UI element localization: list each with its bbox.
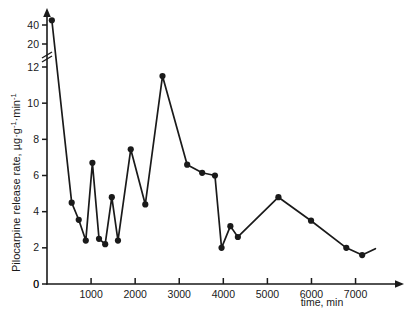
data-point-marker bbox=[69, 200, 75, 206]
x-tick-label: 0 bbox=[33, 278, 39, 290]
y-tick-label: 20 bbox=[27, 38, 39, 50]
data-point-marker bbox=[128, 146, 134, 152]
y-axis-title-sup2: -1 bbox=[9, 93, 18, 100]
data-point-marker bbox=[83, 238, 89, 244]
y-tick-label: 6 bbox=[33, 169, 39, 181]
x-tick-label: 2000 bbox=[123, 288, 147, 300]
data-point-marker bbox=[89, 160, 95, 166]
data-point-marker bbox=[308, 218, 314, 224]
chart-figure: 0246810122040 01000200030004000500060007… bbox=[0, 0, 411, 330]
y-tick-label-group: 0246810122040 bbox=[27, 19, 39, 290]
y-tick-label: 40 bbox=[27, 19, 39, 31]
data-point-marker bbox=[359, 252, 365, 258]
y-axis-arrow-icon bbox=[43, 8, 51, 17]
data-point-marker bbox=[212, 172, 218, 178]
data-point-markers bbox=[49, 17, 366, 258]
y-tick-label: 10 bbox=[27, 97, 39, 109]
data-point-marker bbox=[159, 73, 165, 79]
data-point-marker bbox=[142, 201, 148, 207]
y-axis-title-mid: ·min bbox=[10, 100, 22, 121]
data-point-marker bbox=[227, 223, 233, 229]
x-tick-label: 1000 bbox=[79, 288, 103, 300]
x-tick-label: 4000 bbox=[212, 288, 236, 300]
data-point-marker bbox=[96, 236, 102, 242]
pilocarpine-release-rate-line-chart: 0246810122040 01000200030004000500060007… bbox=[0, 0, 411, 330]
y-axis-title-sup1: -1 bbox=[9, 121, 18, 128]
y-tick-label: 4 bbox=[33, 205, 39, 217]
x-axis-title: time, min bbox=[301, 296, 344, 308]
data-point-marker bbox=[102, 241, 108, 247]
x-tick-label: 3000 bbox=[168, 288, 192, 300]
x-tick-group bbox=[91, 278, 355, 284]
data-point-marker bbox=[199, 170, 205, 176]
y-axis-title-main: Pilocarpine release rate, µg·g bbox=[10, 128, 22, 272]
data-point-marker bbox=[115, 238, 121, 244]
data-point-marker bbox=[235, 234, 241, 240]
x-axis-arrow-icon bbox=[395, 280, 404, 288]
data-point-marker bbox=[184, 162, 190, 168]
data-point-marker bbox=[76, 217, 82, 223]
data-point-marker bbox=[218, 245, 224, 251]
y-tick-label: 12 bbox=[27, 61, 39, 73]
data-point-marker bbox=[109, 194, 115, 200]
y-tick-label: 2 bbox=[33, 241, 39, 253]
y-axis-title: Pilocarpine release rate, µg·g-1·min-1 bbox=[9, 93, 22, 272]
x-tick-label: 7000 bbox=[344, 288, 368, 300]
data-point-marker bbox=[343, 245, 349, 251]
data-point-marker bbox=[49, 17, 55, 23]
y-tick-label: 8 bbox=[33, 133, 39, 145]
svg-text:Pilocarpine release rate, µg·: Pilocarpine release rate, µg·g-1·min-1 bbox=[9, 93, 22, 272]
data-line-series-0 bbox=[52, 20, 376, 255]
x-tick-label: 5000 bbox=[256, 288, 280, 300]
data-point-marker bbox=[275, 194, 281, 200]
